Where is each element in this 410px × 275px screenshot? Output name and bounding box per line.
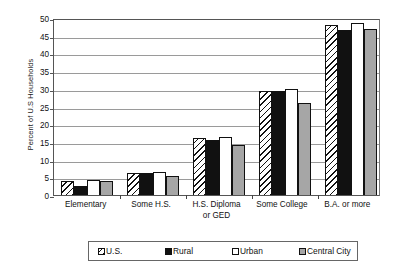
legend-label: Rural: [173, 246, 193, 256]
y-axis-tick-label: 5: [15, 175, 49, 183]
bar: [325, 25, 338, 195]
bar-group: [186, 20, 252, 195]
bar-groups: [54, 20, 379, 195]
y-axis-tick-mark: [50, 197, 54, 198]
y-axis-tick-label: 15: [15, 140, 49, 148]
x-axis-label-line: or GED: [184, 211, 249, 222]
legend-item[interactable]: Urban: [223, 246, 290, 256]
legend-swatch-icon: [299, 248, 306, 255]
gridline: 0: [54, 197, 379, 198]
legend-swatch-icon: [165, 248, 172, 255]
legend-label: Urban: [240, 246, 263, 256]
bar: [232, 145, 245, 195]
x-axis-category-label: H.S. Diplomaor GED: [184, 200, 249, 221]
bar: [206, 140, 219, 195]
legend-label: U.S.: [106, 246, 122, 256]
bar-chart: Percent of U.S Households 50454035302520…: [0, 0, 410, 275]
y-axis-tick-label: 20: [15, 122, 49, 130]
x-axis-category-label: Some H.S.: [118, 200, 183, 221]
x-axis-label-line: Some H.S.: [118, 200, 183, 211]
legend-item[interactable]: Central City: [290, 246, 357, 256]
y-axis-tick-label: 30: [15, 87, 49, 95]
bar-group: [252, 20, 318, 195]
legend-item[interactable]: Rural: [156, 246, 223, 256]
bar: [272, 91, 285, 195]
bar: [259, 91, 272, 195]
x-axis-category-label: B.A. or more: [315, 200, 380, 221]
y-axis-tick-label: 35: [15, 69, 49, 77]
bar: [100, 181, 113, 195]
x-axis-label-line: H.S. Diploma: [184, 200, 249, 211]
bar: [61, 181, 74, 195]
x-axis-category-label: Elementary: [53, 200, 118, 221]
bar: [285, 89, 298, 195]
x-axis-label-line: Some College: [249, 200, 314, 211]
bar: [338, 30, 351, 195]
bar: [87, 180, 100, 195]
y-axis-tick-label: 40: [15, 51, 49, 59]
x-axis-category-label: Some College: [249, 200, 314, 221]
y-axis-tick-label: 10: [15, 157, 49, 165]
bar: [193, 138, 206, 195]
x-axis-label-line: Elementary: [53, 200, 118, 211]
bar: [74, 186, 87, 195]
bar: [364, 29, 377, 195]
legend-swatch-icon: [98, 248, 105, 255]
legend-item[interactable]: U.S.: [89, 246, 156, 256]
bar: [219, 137, 232, 195]
legend-swatch-icon: [232, 248, 239, 255]
bar: [153, 172, 166, 195]
chart-legend: U.S.RuralUrbanCentral City: [88, 241, 358, 261]
bar-group: [54, 20, 120, 195]
y-axis-tick-label: 25: [15, 104, 49, 112]
bar: [140, 173, 153, 195]
bar-group: [318, 20, 384, 195]
y-axis-tick-label: 50: [15, 16, 49, 24]
bar: [127, 173, 140, 195]
bar: [351, 23, 364, 195]
x-axis-label-line: B.A. or more: [315, 200, 380, 211]
x-axis-labels: ElementarySome H.S.H.S. Diplomaor GEDSom…: [53, 200, 380, 221]
plot-area: 50454035302520151050: [53, 19, 380, 196]
bar: [166, 176, 179, 195]
bar-group: [120, 20, 186, 195]
bar: [298, 103, 311, 195]
y-axis-tick-label: 45: [15, 34, 49, 42]
legend-label: Central City: [307, 246, 351, 256]
y-axis-tick-label: 0: [15, 193, 49, 201]
